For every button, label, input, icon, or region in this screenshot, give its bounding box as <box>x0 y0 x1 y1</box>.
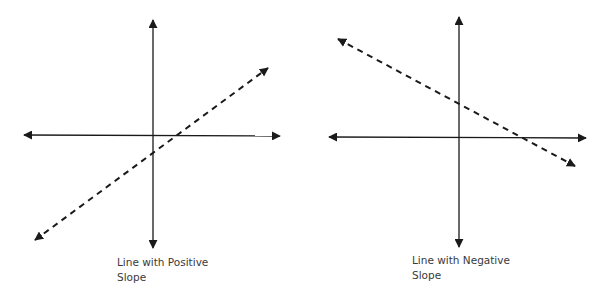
negative-slope-caption: Line with Negative Slope <box>412 253 510 283</box>
caption-line-1: Line with Positive <box>117 255 208 270</box>
positive-slope-line <box>35 68 268 240</box>
x-axis <box>24 135 280 136</box>
x-axis <box>329 137 586 138</box>
slope-diagrams <box>0 0 606 297</box>
caption-line-2: Slope <box>117 270 208 285</box>
positive-slope-diagram <box>24 20 280 248</box>
negative-slope-line <box>338 39 575 166</box>
negative-slope-diagram <box>329 17 586 247</box>
caption-line-2: Slope <box>412 268 510 283</box>
caption-line-1: Line with Negative <box>412 253 510 268</box>
positive-slope-caption: Line with Positive Slope <box>117 255 208 285</box>
